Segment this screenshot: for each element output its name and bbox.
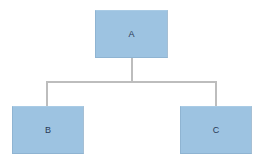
connector-horizontal-bar — [46, 81, 217, 83]
node-a: A — [95, 10, 168, 58]
connector-stem-a — [131, 58, 133, 83]
connector-drop-c — [215, 81, 217, 106]
node-a-label: A — [128, 30, 134, 39]
node-b-label: B — [45, 126, 51, 135]
node-b: B — [12, 106, 84, 154]
org-chart-diagram: A B C — [0, 0, 264, 165]
node-c-label: C — [213, 126, 220, 135]
node-c: C — [180, 106, 252, 154]
connector-drop-b — [46, 81, 48, 106]
